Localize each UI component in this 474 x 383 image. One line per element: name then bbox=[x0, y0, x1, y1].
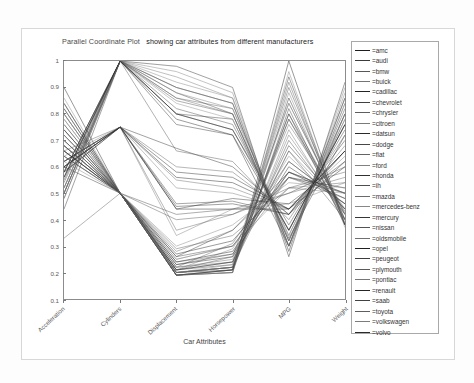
legend-item[interactable]: =mercury bbox=[355, 212, 436, 222]
legend-item[interactable]: =renault bbox=[355, 285, 436, 295]
legend-item[interactable]: =bmw bbox=[355, 66, 436, 76]
series-line bbox=[64, 61, 345, 225]
y-tick-mark bbox=[63, 140, 66, 141]
legend-label: =ih bbox=[372, 182, 381, 189]
legend-item[interactable]: =fiat bbox=[355, 149, 436, 159]
legend-line-swatch bbox=[355, 91, 370, 92]
legend-line-swatch bbox=[355, 133, 370, 134]
series-line bbox=[64, 109, 345, 276]
x-tick-label-weight: Weight bbox=[330, 305, 349, 323]
legend-label: =amc bbox=[372, 47, 388, 54]
legend-line-swatch bbox=[355, 269, 370, 270]
legend-box: =amc=audi=bmw=buick=cadillac=chevrolet=c… bbox=[351, 41, 439, 334]
legend-item[interactable]: =buick bbox=[355, 76, 436, 86]
legend-label: =toyota bbox=[372, 308, 393, 315]
screenshot-root: Parallel Coordinate Plot showing car att… bbox=[0, 0, 474, 383]
series-line bbox=[64, 140, 345, 259]
legend-item[interactable]: =peugeot bbox=[355, 254, 436, 264]
x-tick-mark bbox=[120, 300, 121, 303]
legend-label: =mercury bbox=[372, 214, 399, 221]
legend-label: =fiat bbox=[372, 151, 384, 158]
legend-item[interactable]: =nissan bbox=[355, 222, 436, 232]
y-tick-label: 0.9 bbox=[37, 83, 59, 90]
x-tick-mark bbox=[346, 300, 347, 303]
x-tick-mark bbox=[63, 300, 64, 303]
parallel-coordinate-figure: Parallel Coordinate Plot showing car att… bbox=[22, 29, 456, 361]
legend-item[interactable]: =plymouth bbox=[355, 264, 436, 274]
legend-item[interactable]: =audi bbox=[355, 55, 436, 65]
legend-item[interactable]: =ih bbox=[355, 181, 436, 191]
legend-label: =ford bbox=[372, 162, 387, 169]
legend-line-swatch bbox=[355, 185, 370, 186]
x-tick-label-displacement: Displacement bbox=[146, 305, 178, 336]
y-tick-label: 0.7 bbox=[37, 137, 59, 144]
legend-line-swatch bbox=[355, 165, 370, 166]
legend-item[interactable]: =amc bbox=[355, 45, 436, 55]
legend-line-swatch bbox=[355, 300, 370, 301]
legend-item[interactable]: =volvo bbox=[355, 327, 436, 337]
legend-label: =volvo bbox=[372, 329, 391, 336]
legend-line-swatch bbox=[355, 206, 370, 207]
legend-label: =chevrolet bbox=[372, 99, 402, 106]
legend-line-swatch bbox=[355, 154, 370, 155]
legend-line-swatch bbox=[355, 196, 370, 197]
legend-item[interactable]: =ford bbox=[355, 160, 436, 170]
y-tick-label: 0.5 bbox=[37, 190, 59, 197]
series-line bbox=[64, 140, 345, 259]
legend-item[interactable]: =chevrolet bbox=[355, 97, 436, 107]
legend-label: =datsun bbox=[372, 130, 395, 137]
legend-label: =opel bbox=[372, 245, 388, 252]
figure-card: Parallel Coordinate Plot showing car att… bbox=[21, 28, 455, 360]
legend-item[interactable]: =honda bbox=[355, 170, 436, 180]
y-tick-mark bbox=[63, 247, 66, 248]
legend-item[interactable]: =chrysler bbox=[355, 108, 436, 118]
legend-item[interactable]: =pontiac bbox=[355, 275, 436, 285]
legend-label: =pontiac bbox=[372, 276, 396, 283]
legend-item[interactable]: =datsun bbox=[355, 129, 436, 139]
legend-line-swatch bbox=[355, 217, 370, 218]
series-line bbox=[64, 130, 345, 270]
legend-item[interactable]: =dodge bbox=[355, 139, 436, 149]
y-tick-mark bbox=[63, 87, 66, 88]
x-tick-mark bbox=[289, 300, 290, 303]
legend-label: =cadillac bbox=[372, 88, 397, 95]
legend-label: =chrysler bbox=[372, 109, 398, 116]
legend-item[interactable]: =opel bbox=[355, 243, 436, 253]
legend-line-swatch bbox=[355, 71, 370, 72]
legend-label: =saab bbox=[372, 297, 390, 304]
legend-line-swatch bbox=[355, 102, 370, 103]
legend-item[interactable]: =mercedes-benz bbox=[355, 202, 436, 212]
y-tick-mark bbox=[63, 113, 66, 114]
legend-line-swatch bbox=[355, 238, 370, 239]
legend-line-swatch bbox=[355, 60, 370, 61]
legend-item[interactable]: =cadillac bbox=[355, 87, 436, 97]
legend-line-swatch bbox=[355, 311, 370, 312]
legend-item[interactable]: =saab bbox=[355, 296, 436, 306]
x-tick-label-cylinders: Cylinders bbox=[99, 305, 123, 328]
y-tick-label: 0.8 bbox=[37, 110, 59, 117]
y-tick-label: 1 bbox=[37, 57, 59, 64]
legend-label: =citroen bbox=[372, 120, 395, 127]
x-tick-mark bbox=[233, 300, 234, 303]
legend-item[interactable]: =citroen bbox=[355, 118, 436, 128]
legend-item[interactable]: =mazda bbox=[355, 191, 436, 201]
legend-label: =renault bbox=[372, 287, 395, 294]
x-tick-label-acceleration: Acceleration bbox=[36, 305, 66, 333]
y-tick-mark bbox=[63, 167, 66, 168]
legend-line-swatch bbox=[355, 321, 370, 322]
y-tick-mark bbox=[63, 273, 66, 274]
legend-line-swatch bbox=[355, 175, 370, 176]
legend-label: =plymouth bbox=[372, 266, 402, 273]
legend-line-swatch bbox=[355, 279, 370, 280]
legend-label: =audi bbox=[372, 57, 388, 64]
y-tick-label: 0.3 bbox=[37, 243, 59, 250]
x-tick-mark bbox=[176, 300, 177, 303]
legend-line-swatch bbox=[355, 123, 370, 124]
legend-label: =peugeot bbox=[372, 255, 399, 262]
legend-item[interactable]: =volkswagen bbox=[355, 316, 436, 326]
x-tick-label-horsepower: Horsepower bbox=[207, 305, 236, 333]
legend-item[interactable]: =oldsmobile bbox=[355, 233, 436, 243]
chart-title: Parallel Coordinate Plot showing car att… bbox=[62, 37, 362, 46]
legend-line-swatch bbox=[355, 227, 370, 228]
legend-item[interactable]: =toyota bbox=[355, 306, 436, 316]
